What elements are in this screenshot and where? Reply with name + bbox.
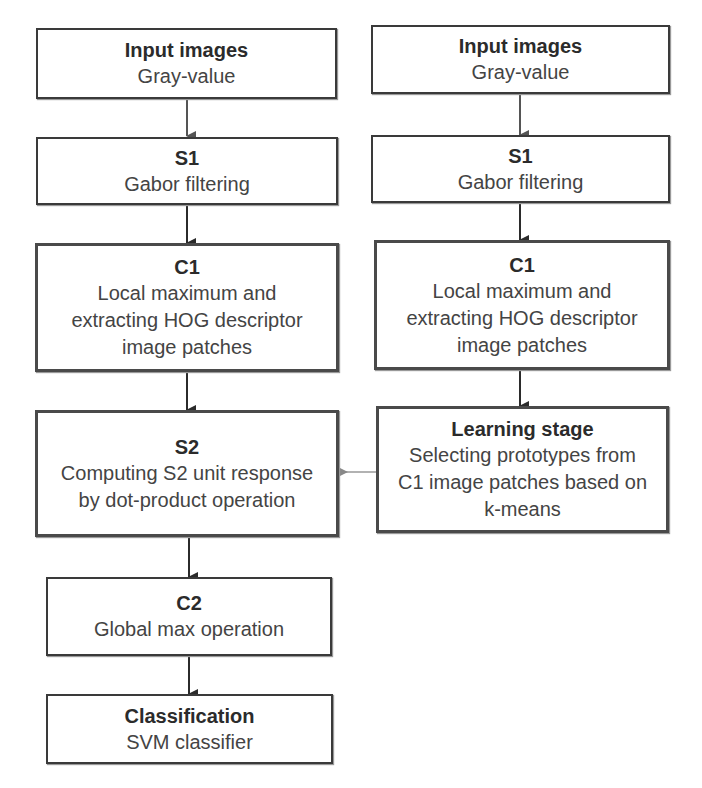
node-text: C1 image patches based on bbox=[398, 469, 647, 496]
node-text: image patches bbox=[457, 332, 587, 359]
node-text: Gabor filtering bbox=[124, 171, 250, 198]
node-text: k-means bbox=[484, 496, 561, 523]
node-title: Learning stage bbox=[451, 416, 593, 442]
node-text: Gabor filtering bbox=[458, 169, 584, 196]
node-s2-left: S2 Computing S2 unit response by dot-pro… bbox=[35, 410, 339, 537]
node-text: extracting HOG descriptor bbox=[71, 307, 302, 334]
node-title: Classification bbox=[124, 703, 254, 729]
node-text: by dot-product operation bbox=[79, 487, 296, 514]
node-text: extracting HOG descriptor bbox=[406, 305, 637, 332]
node-title: C1 bbox=[174, 254, 200, 280]
node-s1-left: S1 Gabor filtering bbox=[36, 137, 338, 205]
node-input-images-right: Input images Gray-value bbox=[371, 25, 670, 94]
node-text: SVM classifier bbox=[126, 729, 253, 756]
node-text: Local maximum and bbox=[433, 278, 612, 305]
node-c2-left: C2 Global max operation bbox=[46, 577, 332, 656]
node-text: Global max operation bbox=[94, 616, 284, 643]
node-text: Gray-value bbox=[138, 63, 236, 90]
node-c1-right: C1 Local maximum and extracting HOG desc… bbox=[374, 240, 670, 370]
node-title: C2 bbox=[176, 590, 202, 616]
node-title: S1 bbox=[508, 143, 532, 169]
node-s1-right: S1 Gabor filtering bbox=[371, 135, 670, 203]
node-title: C1 bbox=[509, 252, 535, 278]
node-text: Local maximum and bbox=[98, 280, 277, 307]
node-title: Input images bbox=[459, 33, 582, 59]
node-title: Input images bbox=[125, 37, 248, 63]
node-classification-left: Classification SVM classifier bbox=[46, 694, 333, 764]
node-text: Gray-value bbox=[472, 59, 570, 86]
node-learning-stage-right: Learning stage Selecting prototypes from… bbox=[376, 406, 669, 533]
node-c1-left: C1 Local maximum and extracting HOG desc… bbox=[35, 243, 339, 372]
node-text: image patches bbox=[122, 334, 252, 361]
node-title: S1 bbox=[175, 145, 199, 171]
node-input-images-left: Input images Gray-value bbox=[36, 28, 337, 99]
node-text: Computing S2 unit response bbox=[61, 460, 313, 487]
node-title: S2 bbox=[175, 434, 199, 460]
node-text: Selecting prototypes from bbox=[409, 442, 636, 469]
connector-arrows bbox=[0, 0, 702, 788]
